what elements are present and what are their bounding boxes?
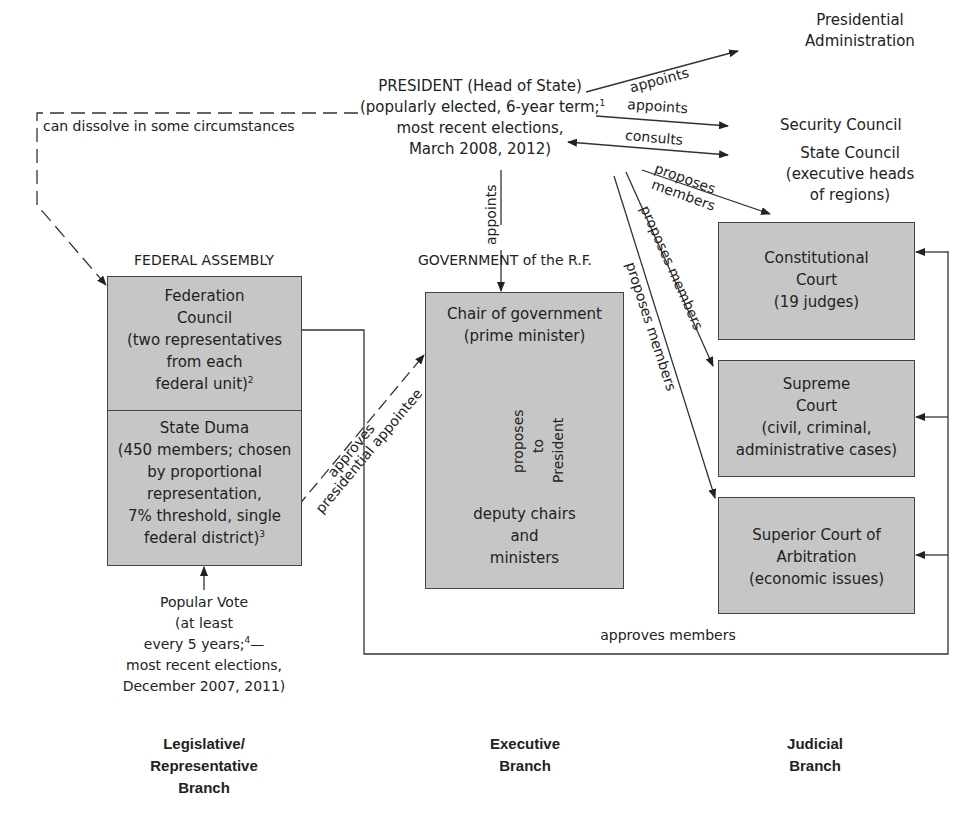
- president-dates: March 2008, 2012): [360, 139, 600, 160]
- deputy-chairs: deputy chairs and ministers: [426, 503, 623, 569]
- footnote-3: 3: [259, 529, 265, 539]
- arb-line-3: (economic issues): [719, 568, 914, 590]
- cc-line-1: Constitutional: [719, 247, 914, 269]
- constitutional-court-box: Constitutional Court (19 judges): [718, 222, 915, 340]
- appoints-government-label: appoints: [483, 185, 499, 245]
- jud-line-2: Branch: [730, 755, 900, 777]
- arb-line-1: Superior Court of: [719, 524, 914, 546]
- proposes-to-president-1: proposes: [510, 409, 526, 473]
- admin-line-2: Administration: [770, 31, 950, 52]
- assembly-divider: [108, 410, 301, 411]
- dissolve-label: can dissolve in some circumstances: [43, 116, 295, 137]
- legislative-branch-label: Legislative/ Representative Branch: [114, 733, 294, 799]
- approves-members-label: approves members: [578, 625, 758, 646]
- sd-line-3: by proportional: [108, 461, 301, 483]
- state-council-line-1: State Council: [760, 143, 940, 164]
- president-title: PRESIDENT (Head of State): [360, 76, 600, 97]
- sd-line-4: representation,: [108, 483, 301, 505]
- pv-line-3-text: every 5 years;: [144, 636, 245, 652]
- leg-line-3: Branch: [114, 777, 294, 799]
- popular-vote: Popular Vote (at least every 5 years;4— …: [104, 592, 304, 697]
- sd-line-6-text: federal district): [144, 529, 259, 547]
- sc-line-3: (civil, criminal,: [719, 417, 914, 439]
- pv-line-4: most recent elections,: [104, 655, 304, 676]
- fc-line-1: Federation: [108, 285, 301, 307]
- federation-council: Federation Council (two representatives …: [108, 285, 301, 395]
- sc-line-2: Court: [719, 395, 914, 417]
- fc-line-2: Council: [108, 307, 301, 329]
- fc-line-4: from each: [108, 351, 301, 373]
- leg-line-2: Representative: [114, 755, 294, 777]
- sd-line-1: State Duma: [108, 417, 301, 439]
- presidential-administration: Presidential Administration: [770, 10, 950, 52]
- federal-assembly-title: FEDERAL ASSEMBLY: [107, 250, 301, 271]
- footnote-1: 1: [600, 98, 606, 108]
- constitutional-court: Constitutional Court (19 judges): [719, 247, 914, 313]
- sd-line-5: 7% threshold, single: [108, 505, 301, 527]
- leg-line-1: Legislative/: [114, 733, 294, 755]
- admin-line-1: Presidential: [770, 10, 950, 31]
- state-duma: State Duma (450 members; chosen by propo…: [108, 417, 301, 549]
- appoints-security-arrow: [596, 116, 728, 126]
- pv-line-5: December 2007, 2011): [104, 676, 304, 697]
- cc-line-3: (19 judges): [719, 291, 914, 313]
- proposes-to-president-2: to: [530, 439, 546, 453]
- executive-branch-label: Executive Branch: [440, 733, 610, 777]
- sc-line-1: Supreme: [719, 373, 914, 395]
- pv-line-3: every 5 years;4—: [104, 634, 304, 655]
- supreme-court-box: Supreme Court (civil, criminal, administ…: [718, 360, 915, 477]
- exec-line-1: Executive: [440, 733, 610, 755]
- footnote-4: 4: [244, 635, 250, 645]
- president-term-text: (popularly elected, 6-year term;: [360, 98, 600, 116]
- supreme-court: Supreme Court (civil, criminal, administ…: [719, 373, 914, 461]
- government-box: Chair of government (prime minister) pro…: [425, 292, 624, 589]
- chair-of-government: Chair of government (prime minister): [426, 303, 623, 347]
- security-council-label: Security Council: [780, 115, 950, 136]
- superior-court-box: Superior Court of Arbitration (economic …: [718, 497, 915, 614]
- fc-line-5: federal unit)2: [108, 373, 301, 395]
- state-council-line-3: of regions): [760, 185, 940, 206]
- chair-line-1: Chair of government: [426, 303, 623, 325]
- exec-line-2: Branch: [440, 755, 610, 777]
- deputy-line-2: and: [426, 525, 623, 547]
- state-council: State Council (executive heads of region…: [760, 143, 940, 206]
- deputy-line-3: ministers: [426, 547, 623, 569]
- president-term: (popularly elected, 6-year term;1: [360, 97, 600, 118]
- superior-court: Superior Court of Arbitration (economic …: [719, 524, 914, 590]
- cc-line-2: Court: [719, 269, 914, 291]
- security-council: Security Council: [780, 115, 950, 136]
- arb-line-2: Arbitration: [719, 546, 914, 568]
- judicial-branch-label: Judicial Branch: [730, 733, 900, 777]
- state-council-line-2: (executive heads: [760, 164, 940, 185]
- pv-line-2: (at least: [104, 613, 304, 634]
- jud-line-1: Judicial: [730, 733, 900, 755]
- sc-line-4: administrative cases): [719, 439, 914, 461]
- deputy-line-1: deputy chairs: [426, 503, 623, 525]
- federal-assembly-box: Federation Council (two representatives …: [107, 276, 302, 566]
- pv-line-1: Popular Vote: [104, 592, 304, 613]
- sd-line-6: federal district)3: [108, 527, 301, 549]
- government-title: GOVERNMENT of the R.F.: [385, 250, 625, 271]
- president-label: PRESIDENT (Head of State) (popularly ele…: [360, 76, 600, 160]
- fc-line-5-text: federal unit): [155, 375, 247, 393]
- fc-line-3: (two representatives: [108, 329, 301, 351]
- president-elections: most recent elections,: [360, 118, 600, 139]
- proposes-to-president-3: President: [550, 418, 566, 483]
- sd-line-2: (450 members; chosen: [108, 439, 301, 461]
- chair-line-2: (prime minister): [426, 325, 623, 347]
- footnote-2: 2: [248, 375, 254, 385]
